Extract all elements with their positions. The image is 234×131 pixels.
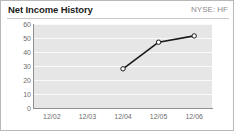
x-axis-tick-label: 12/03 xyxy=(67,113,107,121)
x-axis-tick-labels: 12/0212/0312/0412/0512/06 xyxy=(1,1,234,131)
x-axis-tick-label: 12/05 xyxy=(139,113,179,121)
x-axis-tick-label: 12/04 xyxy=(103,113,143,121)
x-axis-tick-label: 12/06 xyxy=(174,113,214,121)
x-axis-tick-label: 12/02 xyxy=(32,113,72,121)
net-income-history-chart-card: Net Income History NYSE: HF 010203040506… xyxy=(0,0,234,131)
